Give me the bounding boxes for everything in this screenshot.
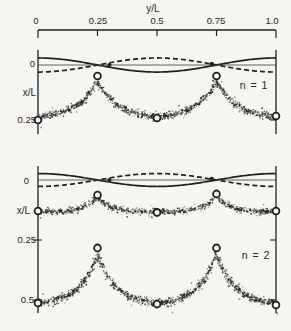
marker-circle [154, 301, 161, 308]
panel2-y-axis-title: x/L [5, 206, 30, 216]
marker-circle [273, 208, 280, 215]
marker-circle [94, 73, 101, 80]
node-dot [107, 178, 111, 182]
chart-canvas [0, 0, 291, 331]
marker-circle [213, 73, 220, 80]
marker-circle [273, 302, 280, 309]
node-dot [210, 177, 214, 181]
top-axis-title: y/L [140, 4, 166, 14]
top-axis-tick-label-4: 1.0 [257, 16, 287, 26]
marker-circle [154, 115, 161, 122]
panel2-ytick-label-025: 0.25 [8, 235, 36, 245]
marker-circle [154, 209, 161, 216]
panel1-ytick-label-025: 0.25 [8, 115, 36, 125]
panel1-y-axis-title: x/L [11, 88, 36, 98]
node-dot [210, 62, 214, 66]
marker-circle [35, 208, 42, 215]
top-axis-tick-label-1: 0.25 [83, 16, 113, 26]
panel-1 [33, 50, 279, 134]
panel1-ytick-label-0: 0 [16, 59, 35, 69]
panel2-ytick-label-05: 0.5 [8, 295, 34, 305]
marker-circle [94, 192, 101, 199]
figure: y/L 0 0.25 0.5 0.75 1.0 0 x/L 0.25 n = 1… [0, 0, 291, 331]
top-axis [38, 30, 276, 38]
marker-circle [35, 299, 42, 306]
top-axis-tick-label-3: 0.75 [201, 16, 231, 26]
top-axis-tick-label-0: 0 [21, 16, 51, 26]
panel1-mode-label: n = 1 [236, 80, 272, 91]
marker-circle [273, 113, 280, 120]
marker-circle [94, 245, 101, 252]
node-dot [107, 63, 111, 67]
panel2-mode-label: n = 2 [238, 250, 274, 261]
marker-circle [213, 191, 220, 198]
panel2-ytick-label-0: 0 [9, 176, 29, 186]
top-axis-tick-label-2: 0.5 [142, 16, 172, 26]
marker-circle [213, 245, 220, 252]
panel-2 [33, 166, 279, 314]
